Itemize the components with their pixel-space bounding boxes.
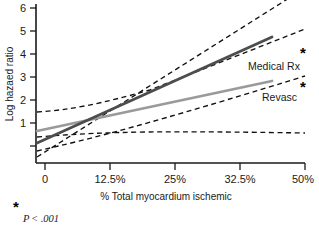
revasc-significance-star: * — [300, 78, 306, 95]
y-axis-ticks — [30, 8, 36, 146]
log-hazard-ratio-chart: 6 5 4 3 2 1 0 12.5% 25% 32.5% 50% % Tota… — [0, 0, 319, 228]
y-axis-title: Log hazaed ratio — [4, 46, 15, 121]
x-tick-label-50: 50% — [292, 173, 314, 185]
x-tick-label-32-5: 32.5% — [224, 173, 255, 185]
revasc-label: Revasc — [262, 91, 297, 103]
y-tick-label-5: 5 — [20, 25, 26, 37]
series-lines-group — [37, 37, 272, 143]
axes-group — [30, 4, 305, 170]
x-tick-label-12-5: 12.5% — [94, 173, 125, 185]
y-tick-label-3: 3 — [20, 71, 26, 83]
footnote-p-symbol: P — [22, 213, 30, 224]
significance-footnote: * P < .001 — [13, 198, 59, 224]
x-tick-labels: 0 12.5% 25% 32.5% 50% — [42, 173, 314, 185]
y-tick-label-1: 1 — [20, 117, 26, 129]
x-tick-label-25: 25% — [164, 173, 186, 185]
x-axis-ticks — [45, 163, 305, 170]
x-axis-title: % Total myocardium ischemic — [100, 191, 232, 202]
y-tick-labels: 6 5 4 3 2 1 — [20, 2, 26, 129]
medical-rx-label: Medical Rx — [248, 60, 301, 72]
y-tick-label-6: 6 — [20, 2, 26, 14]
y-tick-label-4: 4 — [20, 48, 26, 60]
medical-rx-line — [37, 37, 272, 143]
medical-rx-ci-upper — [37, 0, 305, 157]
confidence-bands-group — [37, 0, 305, 157]
y-tick-label-2: 2 — [20, 94, 26, 106]
revasc-ci-lower — [37, 132, 305, 137]
medical-rx-ci-lower — [37, 76, 305, 151]
footnote-star: * — [13, 198, 19, 215]
medical-rx-significance-star: * — [300, 44, 306, 61]
footnote-p-value: < .001 — [31, 213, 59, 224]
series-labels-group: Medical Rx * Revasc * — [248, 44, 306, 103]
figure-container: 6 5 4 3 2 1 0 12.5% 25% 32.5% 50% % Tota… — [0, 0, 319, 228]
x-tick-label-0: 0 — [42, 173, 48, 185]
